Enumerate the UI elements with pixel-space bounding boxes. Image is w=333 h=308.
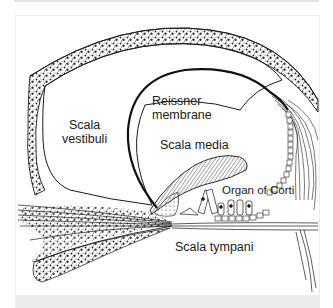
label-reissner-membrane: Reissner membrane [152,94,212,122]
label-scala-vestibuli-line2: vestibuli [62,132,107,146]
label-reissner-line2: membrane [152,108,212,122]
cochlea-diagram [0,0,333,308]
label-scala-vestibuli-line1: Scala [62,118,107,132]
osseous-spiral-lamina [18,205,318,292]
label-organ-of-corti: Organ of Corti [222,183,294,197]
label-reissner-line1: Reissner [152,94,212,108]
label-scala-vestibuli: Scala vestibuli [62,118,107,146]
label-scala-tympani: Scala tympani [175,240,254,254]
label-scala-media: Scala media [160,138,229,152]
